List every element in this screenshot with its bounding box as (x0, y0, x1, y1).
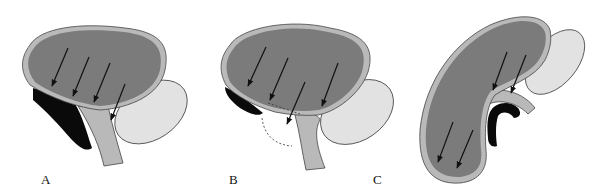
diagram-canvas (0, 0, 613, 195)
panel-c (420, 17, 596, 183)
panel-b (221, 24, 406, 170)
dark-layer (487, 103, 520, 146)
panel-a (23, 26, 200, 166)
panel-label-b: B (229, 172, 238, 188)
panel-label-c: C (373, 172, 382, 188)
panel-label-a: A (41, 172, 50, 188)
